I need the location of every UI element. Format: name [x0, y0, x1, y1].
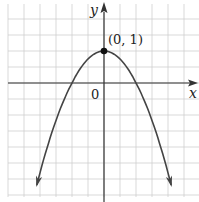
- vertex-label: (0, 1): [108, 32, 143, 47]
- parabola-graph: (0, 1) x y 0: [0, 0, 199, 202]
- x-axis-label: x: [189, 85, 197, 101]
- axes: [8, 2, 198, 202]
- vertex-point: [101, 48, 108, 55]
- y-axis-label: y: [89, 2, 99, 18]
- origin-label: 0: [91, 87, 99, 102]
